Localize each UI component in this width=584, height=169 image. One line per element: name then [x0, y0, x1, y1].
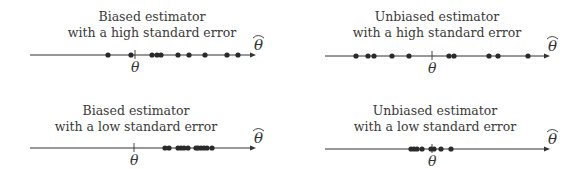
estimate-dot — [235, 52, 240, 57]
estimate-dot — [406, 53, 411, 58]
estimate-dot — [166, 145, 171, 150]
estimator-label: θ — [548, 130, 557, 148]
number-lines: θθθθθθθθ — [0, 0, 584, 169]
estimate-dot — [371, 53, 376, 58]
estimator-label: θ — [548, 37, 557, 55]
estimate-dot — [419, 146, 424, 151]
estimate-dot — [448, 146, 453, 151]
estimator-label: θ — [254, 36, 263, 54]
true-parameter-label: θ — [428, 153, 437, 169]
estimate-dot — [158, 52, 163, 57]
estimate-dot — [438, 146, 443, 151]
true-parameter-label: θ — [130, 152, 139, 168]
estimate-dot — [525, 53, 530, 58]
estimate-dot — [175, 52, 180, 57]
estimate-dot — [495, 53, 500, 58]
estimate-dot — [209, 145, 214, 150]
estimate-dot — [389, 53, 394, 58]
estimate-dot — [365, 53, 370, 58]
estimate-dot — [202, 52, 207, 57]
estimate-dot — [204, 145, 209, 150]
estimate-dot — [224, 52, 229, 57]
estimate-dot — [185, 145, 190, 150]
estimate-dot — [149, 52, 154, 57]
estimate-dot — [446, 53, 451, 58]
true-parameter-label: θ — [131, 59, 140, 75]
estimate-dot — [431, 146, 436, 151]
estimate-dot — [353, 53, 358, 58]
estimate-dot — [451, 53, 456, 58]
estimate-dot — [486, 53, 491, 58]
true-parameter-label: θ — [428, 60, 437, 76]
estimate-dot — [105, 52, 110, 57]
estimate-dot — [414, 146, 419, 151]
estimate-dot — [128, 52, 133, 57]
estimate-dot — [186, 52, 191, 57]
estimator-label: θ — [254, 129, 263, 147]
